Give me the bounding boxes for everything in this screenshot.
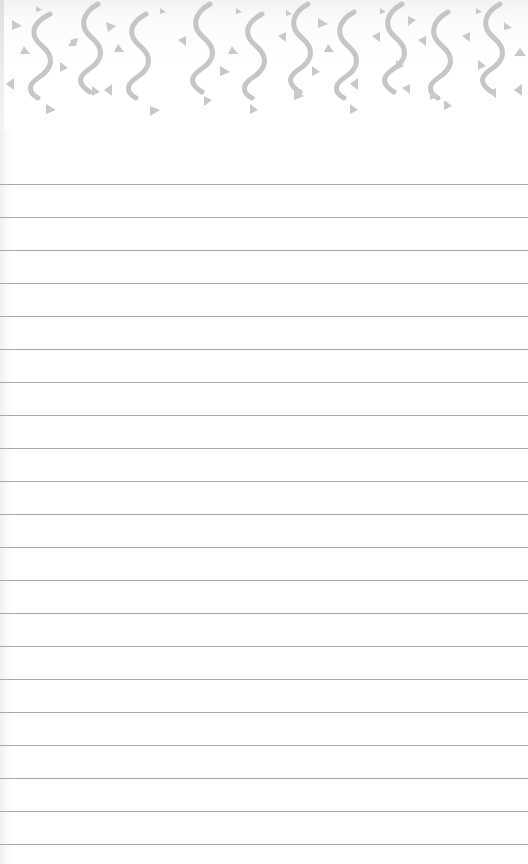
ruled-line [0,679,528,680]
ruled-line [0,745,528,746]
ruled-line [0,448,528,449]
ruled-line [0,316,528,317]
ruled-lines [0,0,528,864]
ruled-line [0,250,528,251]
ruled-line [0,646,528,647]
ruled-line [0,382,528,383]
notepad-page [0,0,528,864]
ruled-line [0,349,528,350]
ruled-line [0,514,528,515]
ruled-line [0,217,528,218]
ruled-line [0,481,528,482]
ruled-line [0,283,528,284]
ruled-line [0,184,528,185]
ruled-line [0,415,528,416]
ruled-line [0,547,528,548]
ruled-line [0,613,528,614]
ruled-line [0,844,528,845]
ruled-line [0,811,528,812]
ruled-line [0,778,528,779]
ruled-line [0,712,528,713]
ruled-line [0,580,528,581]
